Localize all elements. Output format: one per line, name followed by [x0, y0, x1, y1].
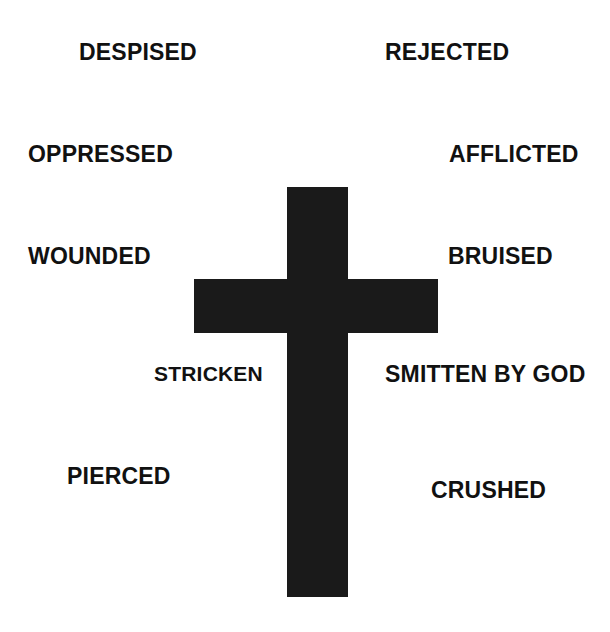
cross-horizontal-bar [194, 279, 438, 333]
label-despised: DESPISED [79, 41, 197, 64]
label-rejected: REJECTED [385, 41, 509, 64]
label-afflicted: AFFLICTED [449, 143, 579, 166]
label-pierced: PIERCED [67, 465, 171, 488]
diagram-canvas: DESPISED REJECTED OPPRESSED AFFLICTED WO… [0, 0, 610, 632]
label-smitten-by-god: SMITTEN BY GOD [385, 363, 585, 386]
cross-icon [0, 0, 610, 632]
label-wounded: WOUNDED [28, 245, 151, 268]
label-stricken: STRICKEN [154, 363, 263, 384]
cross-vertical-bar [287, 187, 348, 597]
label-bruised: BRUISED [448, 245, 553, 268]
label-oppressed: OPPRESSED [28, 143, 173, 166]
label-crushed: CRUSHED [431, 479, 546, 502]
